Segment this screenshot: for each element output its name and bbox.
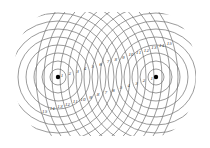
right-source-dot	[154, 75, 158, 79]
ring-label: 9	[122, 55, 125, 60]
wavefront-rings	[0, 0, 210, 148]
ring-label: 8	[114, 57, 117, 62]
ring-label: 5	[120, 85, 123, 90]
ring-label: 13	[151, 45, 157, 50]
ring-label: 7	[105, 90, 108, 95]
ring-label: 3	[76, 69, 79, 74]
ring-label: 1	[61, 73, 64, 78]
right-source-ring	[84, 5, 210, 148]
ring-label: 15	[167, 41, 173, 46]
ring-label: 9	[89, 95, 92, 100]
ring-label: 14	[159, 43, 165, 48]
ring-label: 2	[142, 78, 146, 83]
ring-label: 2	[68, 71, 72, 76]
ring-label: 13	[57, 104, 63, 109]
ring-label: 10	[128, 52, 134, 57]
interference-diagram: 1234567891011121314151234567891011121314…	[0, 0, 210, 148]
ring-label: 6	[112, 88, 115, 93]
ring-label: 1	[150, 76, 153, 81]
ring-label: 11	[73, 99, 78, 104]
right-source-ring	[68, 0, 210, 148]
ring-label: 12	[65, 102, 71, 107]
ring-number-labels: 1234567891011121314151234567891011121314…	[42, 41, 172, 114]
left-source-dot	[56, 75, 60, 79]
ring-label: 11	[136, 50, 141, 55]
ring-label: 10	[80, 97, 86, 102]
ring-label: 7	[107, 59, 110, 64]
ring-label: 14	[50, 106, 56, 111]
ring-label: 8	[97, 92, 100, 97]
ring-label: 3	[135, 81, 138, 86]
ring-label: 12	[144, 48, 150, 53]
ring-label: 4	[126, 83, 130, 88]
ring-label: 6	[99, 62, 102, 67]
ring-label: 4	[83, 66, 87, 71]
ring-label: 15	[42, 109, 48, 114]
ring-label: 5	[91, 64, 94, 69]
left-source-ring	[0, 0, 178, 148]
